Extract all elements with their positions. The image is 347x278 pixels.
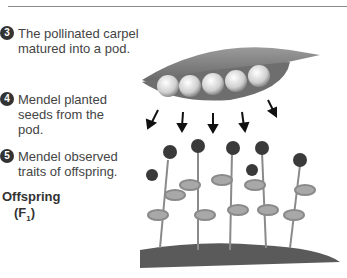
pea-illustration xyxy=(0,0,347,278)
offspring-plants xyxy=(140,139,340,268)
arrow-icons xyxy=(147,100,276,132)
pea-pod xyxy=(142,47,320,100)
